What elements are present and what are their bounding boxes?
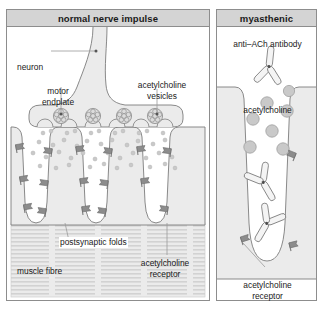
label-postsynaptic-folds: postsynaptic folds	[59, 237, 128, 248]
panel-myasthenic: myasthenic	[216, 9, 317, 301]
label-anti-ach-antibody: anti–ACh antibody	[217, 39, 318, 50]
label-muscle-fibre: muscle fibre	[17, 266, 62, 277]
label-neuron: neuron	[17, 62, 43, 73]
label-motor-endplate: motor endplate	[29, 86, 87, 107]
acetylcholine-receptor-group	[16, 143, 172, 217]
label-acetylcholine-vesicles: acetylcholine vesicles	[119, 80, 205, 101]
acetylcholine-molecule	[283, 85, 294, 96]
acetylcholine-molecule	[244, 141, 256, 153]
panel-normal-nerve-impulse: normal nerve impulse	[6, 9, 210, 301]
label-acetylcholine-receptor: acetylcholine receptor	[125, 258, 205, 279]
label-acetylcholine-receptor-myasthenic: acetylcholine receptor	[217, 280, 318, 301]
panel-myasthenic-header: myasthenic	[217, 10, 316, 27]
panel-normal-title: normal nerve impulse	[58, 13, 158, 24]
acetylcholine-molecule	[266, 125, 278, 137]
acetylcholine-molecule	[277, 143, 289, 155]
panel-myasthenic-stage	[217, 27, 316, 300]
panel-myasthenic-title: myasthenic	[240, 13, 293, 24]
label-acetylcholine: acetylcholine	[217, 105, 318, 116]
neuromuscular-junction-figure: normal nerve impulse	[0, 0, 323, 309]
acetylcholine-molecule-group	[244, 85, 295, 155]
anti-ach-antibody	[252, 45, 285, 87]
panel-normal-header: normal nerve impulse	[7, 10, 209, 27]
myasthenic-junction-illustration	[217, 27, 316, 300]
